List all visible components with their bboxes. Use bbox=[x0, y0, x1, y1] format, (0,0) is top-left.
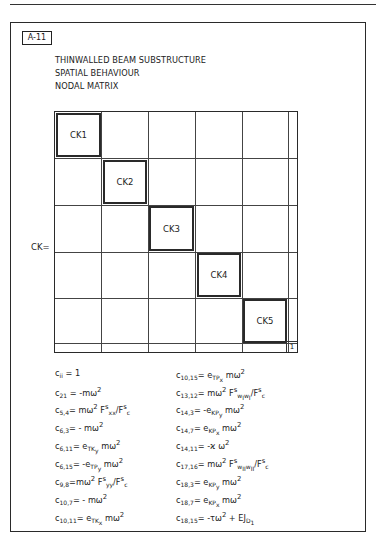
figure-tag: A-11 bbox=[22, 31, 52, 45]
grid-row-line bbox=[55, 158, 297, 159]
equation-left-8: c10,7= - mω2 bbox=[55, 493, 107, 506]
title-line-3: NODAL MATRIX bbox=[55, 81, 118, 91]
grid-row-line bbox=[55, 252, 297, 253]
matrix-block-ck1: CK1 bbox=[56, 113, 101, 157]
equation-left-5: c6,11= eTKy mω2 bbox=[55, 439, 120, 454]
matrix-label: CK= bbox=[31, 242, 50, 252]
matrix-block-ck4: CK4 bbox=[197, 253, 241, 297]
grid-row-line bbox=[55, 343, 297, 344]
equation-right-2: c13,12= mω2 FswIwI/Fsc bbox=[176, 386, 265, 401]
equation-left-9: c10,11= eTKx mω2 bbox=[55, 511, 124, 526]
equation-right-7: c18,3= eKPy mω2 bbox=[176, 475, 241, 490]
nodal-matrix-grid: CK1 CK2 CK3 CK4 CK5 1 bbox=[54, 111, 298, 353]
equation-right-5: c14,11= -ϰ ω2 bbox=[176, 439, 229, 452]
matrix-block-ck5: CK5 bbox=[243, 299, 287, 343]
equation-left-6: c6,15= -eTPy mω2 bbox=[55, 457, 123, 472]
page-top-rule bbox=[10, 4, 376, 5]
grid-col-line bbox=[195, 112, 196, 352]
equation-right-1: c10,15= eTPx mω2 bbox=[176, 368, 245, 383]
equation-left-1: cii = 1 bbox=[55, 368, 80, 379]
equation-right-8: c18,7= eKPx mω2 bbox=[176, 493, 241, 508]
equation-right-9: c18,15= -τω2 + EJD1 bbox=[176, 511, 254, 526]
equation-left-3: c5,4= mω2 Fsxx/Fsc bbox=[55, 403, 130, 416]
grid-col-line bbox=[288, 112, 289, 352]
equation-left-4: c6,3= - mω2 bbox=[55, 421, 103, 434]
matrix-block-ck3: CK3 bbox=[149, 206, 194, 251]
grid-col-line bbox=[101, 112, 102, 352]
equation-right-6: c17,16= mω2 FswIIwII/Fsc bbox=[176, 457, 269, 472]
equation-left-7: c9,8=mω2 Fsyy/Fsc bbox=[55, 475, 127, 488]
equation-left-2: c21 = -mω2 bbox=[55, 386, 101, 399]
title-line-1: THINWALLED BEAM SUBSTRUCTURE bbox=[55, 55, 206, 65]
matrix-block-ck2: CK2 bbox=[103, 160, 147, 204]
equation-right-3: c14,3= -eKPy mω2 bbox=[176, 403, 244, 418]
equation-right-4: c14,7= eKPx mω2 bbox=[176, 421, 241, 436]
title-line-2: SPATIAL BEHAVIOUR bbox=[55, 68, 140, 78]
corner-index: 1 bbox=[286, 341, 297, 352]
